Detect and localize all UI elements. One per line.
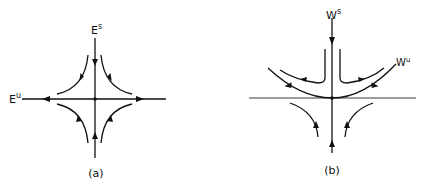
- panel-b: Ws Wu (b): [249, 7, 416, 177]
- label-unstable-subspace: Eu: [9, 91, 21, 106]
- panel-a: Es Eu (a): [9, 22, 166, 180]
- arrow-down-icon: [92, 59, 98, 66]
- arrow-right-icon: [136, 96, 144, 102]
- trajectory-upper-left: [57, 55, 88, 94]
- arrow-up-icon: [92, 132, 98, 139]
- fixed-point: [330, 96, 334, 100]
- trajectory-lower-left: [57, 104, 88, 143]
- phase-portrait-figure: Es Eu (a) Ws Wu (b): [0, 0, 423, 187]
- trajectory-upper-right: [340, 49, 384, 83]
- label-unstable-manifold: Wu: [396, 56, 410, 68]
- trajectory-lower-right: [101, 104, 132, 143]
- fixed-point: [93, 97, 97, 101]
- arrow-up-icon: [329, 140, 335, 147]
- arrow-icon: [300, 77, 307, 82]
- trajectory-upper-left: [280, 49, 325, 83]
- caption-b: (b): [324, 164, 340, 177]
- trajectory-upper-right: [101, 55, 132, 94]
- label-stable-manifold: Ws: [326, 7, 341, 22]
- caption-a: (a): [88, 167, 103, 180]
- trajectory-lower-right: [345, 103, 373, 137]
- arrow-down-icon: [329, 37, 335, 45]
- arrow-icon: [358, 77, 365, 82]
- label-stable-subspace: Es: [91, 22, 102, 37]
- trajectory-lower-left: [290, 103, 318, 137]
- arrow-left-icon: [42, 96, 50, 102]
